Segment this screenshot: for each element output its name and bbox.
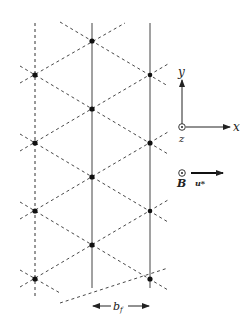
spacing-label-main: b <box>113 300 120 313</box>
x-axis-label: x <box>233 120 240 134</box>
y-axis-label: y <box>177 65 185 79</box>
lattice-diagram: y x z B u* bf <box>0 0 252 331</box>
spacing-label: bf <box>113 300 124 314</box>
magnetic-field-out-of-page-icon <box>179 170 186 177</box>
z-axis-label: z <box>178 133 185 144</box>
velocity-label: u* <box>195 178 206 188</box>
spacing-label-subscript: f <box>119 306 124 314</box>
coordinate-axes: y x z <box>177 65 240 144</box>
diagonal-lattice-lines <box>20 22 168 303</box>
z-axis-out-of-page-icon <box>179 124 186 131</box>
magnetic-field-label: B <box>176 177 186 190</box>
spacing-indicator: bf <box>93 300 149 314</box>
field-indicators: B u* <box>176 170 223 190</box>
